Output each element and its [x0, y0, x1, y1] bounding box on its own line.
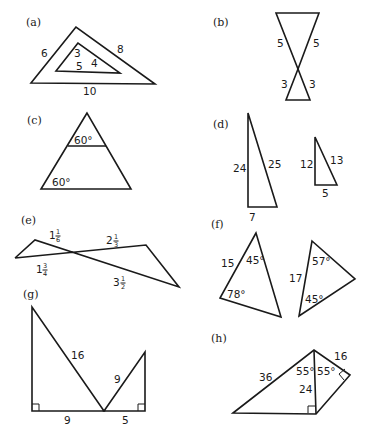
label-small-hyp: 13 [330, 154, 343, 166]
label-upper-angle: 60° [74, 134, 93, 146]
label-outer-bottom: 10 [83, 85, 96, 97]
label-shared-side: 24 [299, 383, 313, 395]
label-right-top-angle: 57° [312, 255, 331, 267]
svg-text:2: 2 [106, 234, 113, 246]
label-outer-right: 8 [117, 43, 124, 55]
lower-triangle [286, 69, 310, 100]
label-right-bottom-angle: 45° [305, 293, 324, 305]
panel-f: (f) 15 45° 78° 17 57° 45° [211, 218, 355, 317]
label-inner-left: 3 [74, 47, 81, 59]
panel-g: (g) 16 9 9 5 [23, 288, 145, 426]
label-lower-angle: 60° [52, 176, 71, 188]
label-left-side: 15 [221, 257, 234, 269]
panel-e-tag: (e) [21, 214, 36, 227]
panel-f-tag: (f) [211, 218, 224, 231]
svg-text:1: 1 [121, 275, 125, 283]
svg-text:2: 2 [121, 283, 125, 291]
label-outer-left: 6 [41, 47, 48, 59]
label-large-leg: 24 [233, 162, 247, 174]
label-large-base: 7 [249, 211, 256, 223]
panel-b: (b) 5 5 3 3 [213, 13, 320, 100]
right-angle-marker [308, 406, 316, 413]
left-right-triangle [32, 307, 104, 411]
label-right-top: 2 1 3 [106, 233, 119, 249]
label-left-top: 1 1 6 [49, 228, 61, 244]
panel-a: (a) 6 8 10 3 4 5 [26, 16, 155, 97]
label-left-base: 9 [64, 414, 71, 426]
svg-text:1: 1 [36, 263, 43, 275]
left-triangle [220, 233, 281, 317]
outer-triangle [31, 27, 155, 84]
svg-text:1: 1 [56, 228, 60, 236]
shared-side [314, 350, 316, 414]
label-right-base: 5 [122, 414, 129, 426]
label-right-side: 16 [334, 350, 348, 362]
label-right-hyp: 9 [114, 373, 121, 385]
panel-a-tag: (a) [26, 16, 41, 29]
panel-h-tag: (h) [211, 332, 227, 345]
label-inner-right: 4 [91, 57, 98, 69]
svg-text:1: 1 [114, 233, 118, 241]
svg-text:3: 3 [113, 276, 120, 288]
label-left-bottom-angle: 78° [227, 288, 246, 300]
label-top-right: 5 [313, 37, 320, 49]
label-inner-bottom: 5 [76, 60, 83, 72]
panel-d-tag: (d) [213, 118, 229, 131]
label-left-top-angle: 45° [246, 254, 265, 266]
panel-e: (e) 1 1 6 1 3 4 2 1 3 3 1 2 [15, 214, 179, 291]
label-small-base: 5 [322, 187, 329, 199]
label-bottom-right: 3 [309, 78, 316, 90]
triangle-figures: (a) 6 8 10 3 4 5 (b) 5 5 3 3 (c) 60° 60°… [0, 0, 367, 430]
svg-text:3: 3 [114, 241, 118, 249]
svg-text:6: 6 [56, 236, 60, 244]
label-left-angle: 55° [296, 365, 315, 377]
label-small-leg: 12 [300, 158, 313, 170]
label-right-side: 17 [289, 272, 302, 284]
panel-b-tag: (b) [213, 16, 229, 29]
quadrilateral [233, 350, 350, 414]
right-angle-marker [32, 404, 39, 411]
label-right-angle: 55° [317, 365, 336, 377]
svg-text:3: 3 [43, 262, 47, 270]
panel-c-tag: (c) [27, 114, 42, 127]
panel-h: (h) 36 16 24 55° 55° [211, 332, 350, 414]
label-top-left: 5 [277, 37, 284, 49]
label-large-hyp: 25 [268, 158, 281, 170]
panel-g-tag: (g) [23, 288, 39, 301]
panel-d: (d) 24 25 7 12 13 5 [213, 113, 343, 223]
right-angle-marker [138, 404, 145, 411]
label-right-bottom: 3 1 2 [113, 275, 126, 291]
label-left-hyp: 16 [71, 349, 85, 361]
right-right-triangle [104, 352, 145, 411]
label-left-side: 36 [259, 371, 273, 383]
label-bottom-left: 3 [281, 78, 288, 90]
label-left-bottom: 1 3 4 [36, 262, 48, 278]
svg-text:1: 1 [49, 229, 56, 241]
svg-text:4: 4 [43, 270, 47, 278]
inner-triangle [56, 43, 120, 73]
panel-c: (c) 60° 60° [27, 113, 131, 189]
